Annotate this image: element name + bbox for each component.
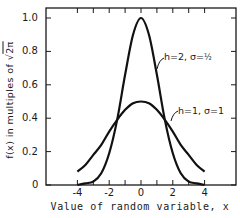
y-tick-label: 1.0 [22,13,38,23]
leader-line-wide [171,111,178,121]
y-tick-label: 0.6 [22,80,38,90]
x-tick-label: -4 [69,188,85,198]
y-axis-label-text: f(x) in multiples of [4,64,15,159]
sqrt-symbol: √2π [4,41,15,60]
y-tick-label: 0.2 [22,147,38,157]
y-tick-label: 0 [32,180,38,190]
x-tick-label: 0 [133,188,149,198]
y-axis-label: f(x) in multiples of √2π [4,41,15,158]
x-tick-label: 4 [197,188,213,198]
sqrt-radicand: 2π [4,41,15,54]
plot-frame [46,8,236,185]
annotation-h2-fraction: ½ [204,53,212,62]
x-tick-label: 2 [165,188,181,198]
x-axis-label: Value of random variable, x [51,201,230,212]
leader-line-tall [157,58,164,69]
y-tick-label: 0.4 [22,113,38,123]
y-tick-label: 0.8 [22,46,38,56]
axis-ticks [46,8,236,185]
annotation-h1: h=1, σ=1 [178,105,224,116]
annotation-h2: h=2, σ=½ [164,51,212,62]
annotation-h2-text: h=2, σ= [164,51,204,62]
x-tick-label: -2 [101,188,117,198]
